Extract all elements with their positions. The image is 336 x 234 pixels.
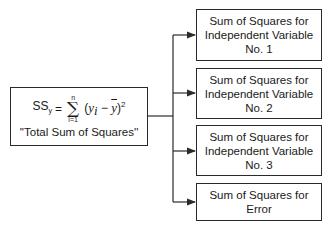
target-line: Sum of Squares for: [209, 14, 308, 28]
ss-lhs: SSy: [33, 99, 53, 118]
target-line: No. 1: [245, 42, 273, 56]
ss-formula: SSy = n ∑ i=1 (yi − y)2: [33, 94, 126, 123]
target-line: Independent Variable: [205, 87, 314, 101]
target-box-var-1: Sum of Squares for Independent Variable …: [196, 9, 322, 61]
summation: n ∑ i=1: [67, 94, 79, 123]
summand: (yi − y)2: [84, 98, 125, 118]
target-line: Sum of Squares for: [209, 188, 308, 202]
target-line: Independent Variable: [205, 144, 314, 158]
target-line: No. 2: [245, 101, 273, 115]
target-line: Independent Variable: [205, 28, 314, 42]
target-box-var-3: Sum of Squares for Independent Variable …: [196, 125, 322, 176]
target-line: Error: [246, 202, 272, 216]
target-box-error: Sum of Squares for Error: [196, 183, 322, 221]
target-line: Sum of Squares for: [209, 73, 308, 87]
target-box-var-2: Sum of Squares for Independent Variable …: [196, 68, 322, 119]
target-line: Sum of Squares for: [209, 130, 308, 144]
total-caption: ''Total Sum of Squares'': [20, 125, 139, 139]
equals-sign: =: [55, 102, 62, 116]
target-line: No. 3: [245, 158, 273, 172]
total-sum-of-squares-box: SSy = n ∑ i=1 (yi − y)2 ''Total Sum of S…: [10, 87, 148, 146]
